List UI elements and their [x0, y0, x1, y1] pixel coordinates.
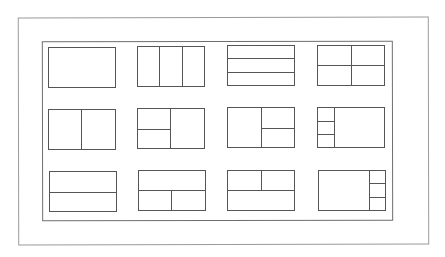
layout-two-columns[interactable] — [48, 109, 116, 150]
layout-three-columns[interactable] — [137, 46, 205, 87]
layout-single[interactable] — [48, 47, 116, 88]
layout-right-split-two[interactable] — [227, 107, 295, 148]
divider-horizontal — [50, 192, 116, 193]
layout-left-split-two[interactable] — [137, 108, 205, 149]
divider-horizontal — [228, 58, 294, 59]
layout-left-narrow-three[interactable] — [317, 107, 385, 148]
divider-vertical — [81, 110, 82, 149]
layout-top-split-two[interactable] — [227, 170, 295, 211]
divider-horizontal — [318, 134, 335, 135]
divider-vertical — [159, 47, 160, 86]
layout-grid-2x2[interactable] — [317, 45, 385, 86]
divider-vertical — [369, 171, 370, 210]
divider-horizontal — [138, 129, 171, 130]
divider-horizontal — [369, 183, 385, 184]
layout-picker-canvas — [0, 0, 445, 257]
divider-horizontal — [261, 128, 294, 129]
layout-two-rows[interactable] — [49, 171, 117, 212]
layout-bottom-split-two[interactable] — [138, 170, 206, 211]
divider-vertical — [182, 47, 183, 86]
divider-horizontal — [228, 72, 294, 73]
divider-horizontal — [139, 190, 205, 191]
divider-vertical — [334, 108, 335, 147]
layout-right-narrow-three[interactable] — [318, 170, 386, 211]
divider-horizontal — [318, 65, 384, 66]
divider-horizontal — [318, 121, 335, 122]
layout-three-rows[interactable] — [227, 45, 295, 86]
divider-vertical — [261, 171, 262, 191]
divider-vertical — [171, 190, 172, 210]
divider-horizontal — [369, 197, 385, 198]
